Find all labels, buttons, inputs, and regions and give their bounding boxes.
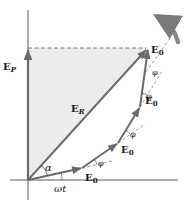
omega-t-label: ωt bbox=[54, 183, 67, 194]
e0-label-2: E0 bbox=[121, 144, 134, 157]
e0-label-4: E0 bbox=[151, 44, 164, 57]
phi-label-4: φ bbox=[152, 68, 158, 77]
omega-t-arc bbox=[61, 173, 62, 180]
ep-label: EP bbox=[3, 61, 17, 74]
phi-label-1: φ bbox=[98, 159, 104, 168]
phi-arc-1 bbox=[94, 160, 97, 165]
phi-label-2: φ bbox=[130, 130, 136, 139]
phi-label-3: φ bbox=[146, 92, 152, 101]
e0-phasor-3 bbox=[118, 108, 139, 143]
rotation-arrow-icon bbox=[160, 18, 178, 42]
e0-label-1: E0 bbox=[85, 172, 98, 185]
alpha-label: α bbox=[45, 162, 52, 173]
phasor-diagram: EP ER E0 E0 E0 E0 α ωt φ φ φ φ bbox=[0, 0, 190, 202]
